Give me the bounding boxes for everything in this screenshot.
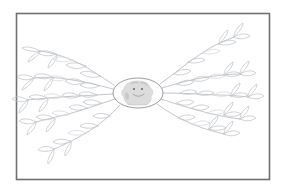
smiling-blob-figure: [122, 81, 153, 105]
blob-right-eye: [141, 88, 143, 90]
sketch-canvas: [0, 0, 284, 192]
blob-left-eye: [133, 88, 135, 90]
mindmap-sketch: [0, 0, 284, 192]
central-node[interactable]: [113, 78, 163, 108]
